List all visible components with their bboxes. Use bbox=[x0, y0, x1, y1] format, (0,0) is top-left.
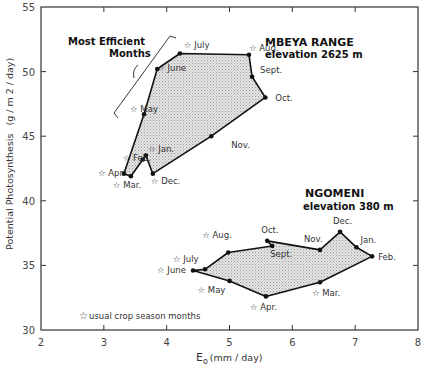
legend-star-icon: ☆ bbox=[79, 310, 88, 321]
month-label: Oct. bbox=[275, 93, 292, 103]
x-tick-label: 8 bbox=[415, 337, 421, 348]
y-tick-label: 45 bbox=[22, 131, 35, 142]
month-label: ☆ May bbox=[198, 285, 226, 295]
x-tick-label: 6 bbox=[289, 337, 295, 348]
ngomeni-title: NGOMENI bbox=[305, 187, 364, 200]
data-point bbox=[250, 74, 255, 79]
efficient-label-line2: Months bbox=[109, 48, 151, 59]
efficient-label-line1: Most Efficient bbox=[68, 36, 145, 47]
data-point bbox=[227, 279, 232, 284]
x-tick-label: 2 bbox=[38, 337, 44, 348]
month-label: ☆ Feb. bbox=[123, 153, 151, 163]
data-point bbox=[191, 268, 196, 273]
photosynthesis-chart: 2345678303540455055 ☆ July☆ Aug.Sept.Oct… bbox=[0, 0, 425, 370]
data-point bbox=[226, 250, 231, 255]
y-tick-label: 55 bbox=[22, 2, 35, 13]
month-label: Nov. bbox=[304, 234, 323, 244]
data-point bbox=[270, 244, 275, 249]
data-point bbox=[129, 174, 134, 179]
x-axis-label: Eo(mm / day) bbox=[196, 351, 263, 366]
month-label: ☆ July bbox=[173, 254, 199, 264]
x-tick-label: 5 bbox=[226, 337, 232, 348]
x-tick-label: 3 bbox=[101, 337, 107, 348]
y-axis-label: Potential Photosynthesis(g / m 2 / day) bbox=[4, 58, 15, 250]
data-point bbox=[264, 294, 269, 299]
data-point bbox=[178, 51, 183, 56]
y-tick-label: 40 bbox=[22, 196, 35, 207]
month-label: ☆ Jan. bbox=[148, 144, 174, 154]
data-point bbox=[318, 248, 323, 253]
month-label: ☆ Dec. bbox=[151, 176, 180, 186]
data-point bbox=[209, 134, 214, 139]
y-tick-label: 35 bbox=[22, 260, 35, 271]
legend-text: usual crop season months bbox=[89, 311, 201, 321]
month-label: ☆ Apr. bbox=[250, 302, 277, 312]
month-label: ☆ Aug. bbox=[202, 230, 232, 240]
month-label: ☆ June bbox=[157, 265, 186, 275]
month-label: ☆ Mar. bbox=[312, 288, 340, 298]
month-label: Dec. bbox=[333, 216, 352, 226]
data-point bbox=[265, 239, 270, 244]
mbeya-title: MBEYA RANGE bbox=[265, 36, 354, 49]
month-label: ☆ July bbox=[184, 40, 210, 50]
ngomeni-elevation: elevation 380 m bbox=[303, 201, 394, 212]
data-point bbox=[338, 230, 343, 235]
mbeya-elevation: elevation 2625 m bbox=[265, 49, 363, 60]
month-label: Jan. bbox=[359, 235, 376, 245]
data-point bbox=[203, 267, 208, 272]
data-point bbox=[370, 254, 375, 259]
y-tick-label: 30 bbox=[22, 325, 35, 336]
data-point bbox=[247, 53, 252, 58]
month-label: Oct. bbox=[261, 225, 278, 235]
x-tick-label: 4 bbox=[163, 337, 169, 348]
month-label: ☆ June bbox=[157, 63, 186, 73]
month-label: Sept. bbox=[260, 65, 282, 75]
data-point bbox=[354, 245, 359, 250]
efficient-arrow bbox=[134, 65, 139, 78]
month-label: ☆ May bbox=[130, 104, 158, 114]
month-label: Feb. bbox=[378, 252, 396, 262]
x-tick-label: 7 bbox=[352, 337, 358, 348]
month-label: ☆ Apr. bbox=[98, 168, 125, 178]
month-label: ☆ Mar. bbox=[113, 180, 141, 190]
month-label: Sept. bbox=[270, 249, 292, 259]
month-label: Nov. bbox=[231, 140, 250, 150]
data-point bbox=[318, 280, 323, 285]
y-tick-label: 50 bbox=[22, 67, 35, 78]
data-point bbox=[263, 95, 268, 100]
